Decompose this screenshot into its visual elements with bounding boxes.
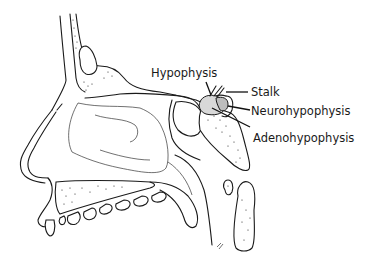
axis (234, 182, 255, 251)
pituitary-stalk (210, 86, 224, 96)
cervical-vertebrae (224, 180, 255, 251)
label-adenohypophysis: Adenohypophysis (253, 131, 354, 145)
frontal-bone (52, 14, 175, 110)
label-stalk: Stalk (251, 85, 280, 99)
upper-lip (38, 178, 52, 227)
atlas (224, 180, 233, 195)
nose-profile (20, 104, 62, 183)
neurohypophysis-leader (228, 106, 250, 110)
hypophysis-leader (206, 82, 211, 95)
sagittal-head-diagram: Hypophysis Stalk Neurohypophysis Adenohy… (0, 0, 365, 270)
nasal-conchae (69, 103, 168, 173)
label-neurohypophysis: Neurohypophysis (251, 104, 350, 118)
frontal-sinus (79, 46, 97, 75)
artist-signature (217, 243, 223, 249)
sphenoid-sinus (173, 101, 203, 136)
label-hypophysis: Hypophysis (151, 66, 217, 80)
